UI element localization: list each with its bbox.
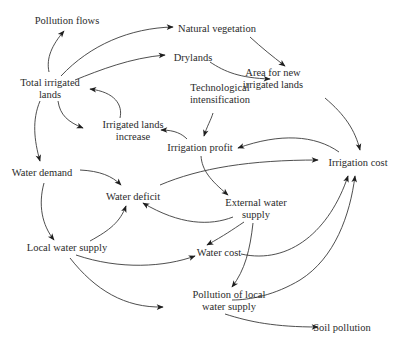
node-total-irrigated: Total irrigatedlands (20, 77, 80, 100)
node-irrigation-profit: Irrigation profit (167, 142, 233, 153)
node-label: Irrigated lands (103, 119, 164, 130)
node-local-water: Local water supply (27, 242, 108, 253)
node-external-water: External watersupply (225, 197, 287, 220)
node-label: water supply (202, 301, 257, 312)
node-label: Water deficit (106, 191, 160, 202)
node-label: Pollution of local (193, 289, 266, 300)
node-drylands: Drylands (174, 52, 213, 63)
edge-external-water-to-water-cost (207, 222, 244, 245)
node-water-demand: Water demand (12, 167, 73, 178)
edge-water-demand-to-water-deficit (80, 170, 121, 185)
node-label: Pollution flows (35, 15, 99, 26)
node-label: Soil pollution (313, 322, 371, 333)
node-label: lands (39, 89, 61, 100)
node-pollution-flows: Pollution flows (35, 15, 99, 26)
node-water-cost: Water cost (197, 247, 241, 258)
node-tech-intensification: Technologicalintensification (190, 82, 251, 105)
node-label: Technological (190, 82, 249, 93)
edge-total-irrigated-to-pollution-flows (48, 31, 64, 72)
edge-irrigation-cost-to-irrigation-profit (238, 138, 339, 152)
edge-natural-vegetation-to-area-new-irrigated (250, 37, 285, 66)
edge-pollution-local-to-soil-pollution (225, 314, 318, 327)
edge-external-water-to-water-deficit (143, 203, 233, 222)
edge-area-new-irrigated-to-irrigation-cost (325, 98, 360, 150)
node-water-deficit: Water deficit (106, 191, 160, 202)
node-area-new-irrigated: Area for newirrigated lands (243, 67, 303, 90)
edge-local-water-to-water-deficit (90, 206, 126, 241)
node-label: Drylands (174, 52, 213, 63)
node-pollution-local: Pollution of localwater supply (193, 289, 266, 312)
edge-total-irrigated-to-drylands (75, 55, 165, 80)
edge-water-demand-to-local-water (41, 183, 54, 240)
edge-total-irrigated-to-natural-vegetation (61, 27, 173, 76)
edge-pollution-local-to-irrigation-cost (232, 176, 355, 300)
edge-irrigation-profit-to-external-water (201, 156, 228, 195)
node-label: Water cost (197, 247, 241, 258)
causal-loop-diagram: Pollution flowsNatural vegetationDryland… (0, 0, 407, 348)
edge-local-water-to-water-cost (76, 255, 195, 265)
node-label: intensification (190, 94, 251, 105)
node-label: External water (225, 197, 287, 208)
node-label: Water demand (12, 167, 73, 178)
node-label: Irrigation cost (328, 157, 387, 168)
edge-water-deficit-to-irrigation-cost (160, 160, 318, 185)
node-label: irrigated lands (243, 79, 303, 90)
node-label: Total irrigated (20, 77, 80, 88)
node-label: Natural vegetation (178, 23, 257, 34)
node-label: supply (242, 209, 271, 220)
node-label: Area for new (245, 67, 301, 78)
node-irrigation-cost: Irrigation cost (328, 157, 387, 168)
node-label: Local water supply (27, 242, 108, 253)
edge-total-irrigated-to-irrigated-increase (58, 101, 83, 128)
node-soil-pollution: Soil pollution (313, 322, 371, 333)
node-irrigated-increase: Irrigated landsincrease (103, 119, 164, 142)
edge-tech-intensification-to-irrigation-profit (204, 113, 213, 136)
node-label: Irrigation profit (167, 142, 233, 153)
edge-total-irrigated-to-water-demand (35, 101, 40, 161)
edge-irrigated-increase-to-total-irrigated (90, 89, 121, 118)
edge-irrigation-profit-to-irrigated-increase (161, 130, 187, 139)
node-natural-vegetation: Natural vegetation (178, 23, 257, 34)
node-label: increase (116, 131, 151, 142)
